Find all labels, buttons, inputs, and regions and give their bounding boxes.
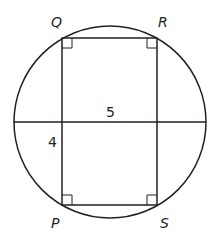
geometry-figure: Q R P S 5 4 — [0, 0, 215, 237]
right-angle-marker-p — [62, 195, 72, 205]
vertex-label-p: P — [51, 215, 60, 231]
vertex-label-r: R — [158, 14, 168, 30]
right-angle-marker-s — [147, 195, 157, 205]
right-angle-marker-r — [147, 38, 157, 48]
chord-length-label: 5 — [106, 104, 115, 120]
right-angle-marker-q — [62, 38, 72, 48]
vertex-label-q: Q — [51, 14, 62, 30]
vertex-label-s: S — [160, 215, 169, 231]
segment-length-label: 4 — [48, 134, 57, 150]
